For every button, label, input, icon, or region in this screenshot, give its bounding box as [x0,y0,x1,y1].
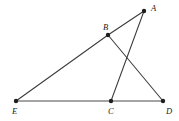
edges-group [16,11,163,101]
vertex-point-D [161,99,165,103]
vertex-point-A [142,9,146,13]
vertex-label-C: C [108,107,114,116]
vertex-label-D: D [166,107,172,116]
vertices-group [14,9,165,103]
geometry-figure: A B C D E [0,0,179,121]
vertex-label-E: E [12,107,17,116]
vertex-point-E [14,99,18,103]
vertex-label-A: A [151,4,156,13]
segment-EB [16,35,108,101]
segment-BA [108,11,144,35]
segment-AC [111,11,144,101]
vertex-label-B: B [103,23,108,32]
segment-BD [108,35,163,101]
vertex-point-C [109,99,113,103]
figure-canvas [0,0,179,121]
vertex-point-B [106,33,110,37]
